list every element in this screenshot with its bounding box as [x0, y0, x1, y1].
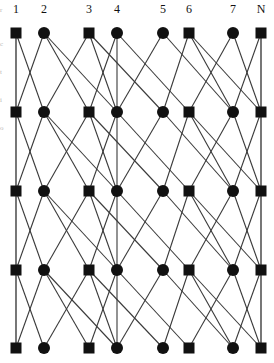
node-circle-r4-c3	[111, 342, 123, 354]
node-square-r1-c5	[184, 107, 195, 118]
node-circle-r3-c4	[157, 264, 169, 276]
node-square-r1-c2	[84, 107, 95, 118]
node-circle-r0-c3	[111, 27, 123, 39]
network-edge	[117, 191, 189, 270]
node-circle-r2-c3	[111, 185, 123, 197]
node-square-r3-c0	[11, 265, 22, 276]
node-square-r4-c5	[184, 343, 195, 354]
network-edge	[44, 112, 117, 191]
node-square-r2-c5	[184, 186, 195, 197]
network-edge	[163, 33, 189, 112]
node-square-r0-c2	[84, 28, 95, 39]
network-edge	[117, 33, 189, 112]
node-square-r3-c2	[84, 265, 95, 276]
side-margin-mark: t	[0, 68, 2, 76]
network-graph-canvas	[0, 0, 274, 363]
node-square-r0-c5	[184, 28, 195, 39]
node-square-r2-c7	[256, 186, 267, 197]
node-circle-r3-c3	[111, 264, 123, 276]
network-edge	[117, 112, 163, 191]
node-square-r4-c0	[11, 343, 22, 354]
network-edge	[189, 270, 261, 348]
node-circle-r0-c1	[38, 27, 50, 39]
node-circle-r2-c6	[227, 185, 239, 197]
network-edge	[163, 112, 233, 191]
network-edge	[44, 270, 117, 348]
network-edge	[163, 270, 233, 348]
node-circle-r2-c1	[38, 185, 50, 197]
network-edge	[189, 33, 261, 112]
network-edge	[189, 191, 261, 270]
node-square-r2-c2	[84, 186, 95, 197]
node-circle-r4-c4	[157, 342, 169, 354]
network-edge	[117, 112, 189, 191]
node-circle-r3-c6	[227, 264, 239, 276]
node-square-r2-c0	[11, 186, 22, 197]
node-circle-r2-c4	[157, 185, 169, 197]
node-square-r3-c7	[256, 265, 267, 276]
network-edge	[163, 112, 189, 191]
network-edge	[44, 33, 117, 112]
side-margin-mark: r	[0, 6, 2, 14]
side-margin-mark: o	[0, 124, 4, 132]
network-edge	[163, 33, 233, 112]
node-square-r0-c0	[11, 28, 22, 39]
network-edge	[89, 112, 163, 191]
network-edge	[163, 270, 189, 348]
network-edge	[117, 33, 163, 112]
side-margin-mark: c	[0, 40, 3, 48]
network-edge	[117, 270, 163, 348]
vertical-rail-group	[16, 33, 261, 348]
network-edge	[44, 191, 117, 270]
node-circle-r1-c4	[157, 106, 169, 118]
node-circle-r1-c6	[227, 106, 239, 118]
node-circle-r0-c6	[227, 27, 239, 39]
side-margin-mark: i	[0, 96, 2, 104]
network-edge	[89, 33, 163, 112]
node-square-r1-c7	[256, 107, 267, 118]
node-square-r3-c5	[184, 265, 195, 276]
network-edge	[117, 191, 163, 270]
network-edge	[89, 191, 163, 270]
node-square-r0-c7	[256, 28, 267, 39]
network-edge	[117, 270, 189, 348]
edge-group	[16, 33, 261, 348]
network-edge	[163, 191, 189, 270]
network-edge	[189, 112, 261, 191]
node-square-r1-c0	[11, 107, 22, 118]
node-circle-r3-c1	[38, 264, 50, 276]
node-circle-r1-c3	[111, 106, 123, 118]
network-diagram-figure: 1234567N rctio	[0, 0, 274, 363]
node-circle-r1-c1	[38, 106, 50, 118]
node-circle-r4-c6	[227, 342, 239, 354]
node-circle-r4-c1	[38, 342, 50, 354]
node-square-r4-c2	[84, 343, 95, 354]
node-circle-r0-c4	[157, 27, 169, 39]
network-edge	[163, 191, 233, 270]
node-square-r4-c7	[256, 343, 267, 354]
network-edge	[89, 270, 163, 348]
